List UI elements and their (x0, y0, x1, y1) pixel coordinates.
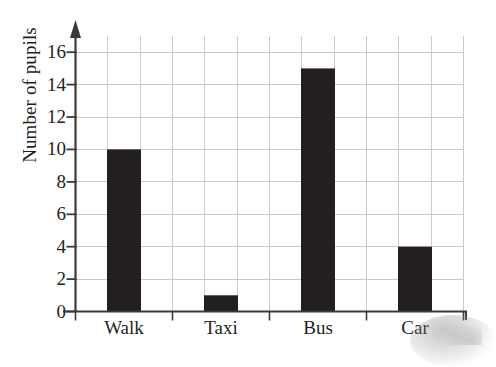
bar-car (398, 247, 432, 312)
y-axis-arrow-icon (70, 20, 81, 38)
x-category-label-walk: Walk (76, 318, 173, 337)
bar-walk (107, 149, 141, 311)
bar-bus (301, 68, 335, 311)
x-category-label-bus: Bus (270, 318, 367, 337)
bar-taxi (204, 295, 238, 311)
x-category-label-taxi: Taxi (173, 318, 270, 337)
x-category-label-car: Car (367, 318, 464, 337)
